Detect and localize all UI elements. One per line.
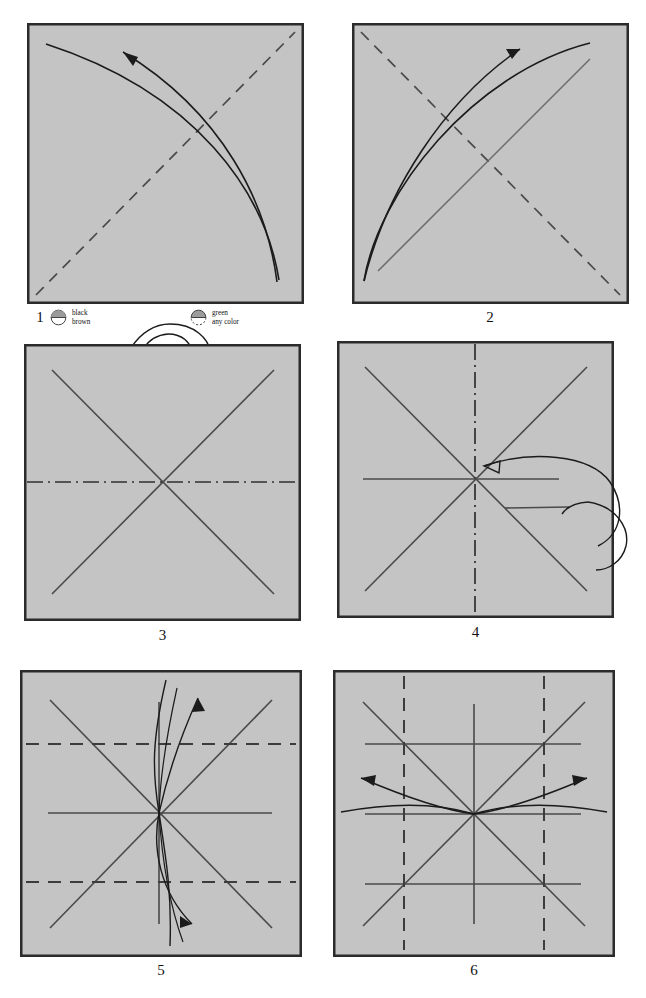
legend-line-green: green xyxy=(212,309,239,317)
half-filled-circle-solid-icon xyxy=(50,309,67,326)
legend-item-green-anycolor: green any color xyxy=(190,309,239,326)
legend-line-brown: brown xyxy=(72,318,90,326)
step-number-3: 3 xyxy=(24,628,301,643)
legend-label-green-anycolor: green any color xyxy=(212,309,239,325)
step-panel-5 xyxy=(20,670,302,957)
step-number-5: 5 xyxy=(20,963,302,978)
half-filled-circle-dashed-icon xyxy=(190,309,207,326)
legend-line-anycolor: any color xyxy=(212,318,239,326)
step-number-2: 2 xyxy=(465,310,515,325)
step-number-4: 4 xyxy=(337,625,614,640)
step-panel-2 xyxy=(352,23,629,304)
step-panel-4 xyxy=(337,341,614,618)
legend-line-black: black xyxy=(72,309,90,317)
legend-label-black-brown: black brown xyxy=(72,309,90,325)
origami-instruction-sheet: 1 black brown green any color xyxy=(0,0,646,998)
step-panel-6 xyxy=(333,670,615,957)
step-panel-3 xyxy=(24,344,301,621)
step-number-6: 6 xyxy=(333,963,615,978)
legend-item-black-brown: black brown xyxy=(50,309,90,326)
